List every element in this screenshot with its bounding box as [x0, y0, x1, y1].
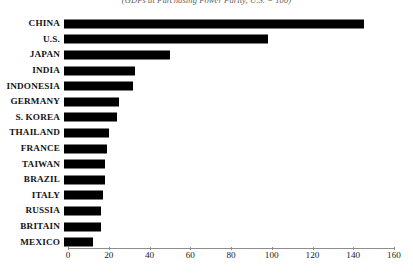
bar [64, 19, 364, 28]
bar-row: TAIWAN [0, 156, 413, 172]
bar-row: INDONESIA [0, 78, 413, 94]
bar-row: INDIA [0, 63, 413, 79]
x-tick-label: 140 [346, 250, 360, 260]
bar [64, 82, 133, 91]
category-label: JAPAN [0, 50, 64, 59]
bar-rows: CHINAU.S.JAPANINDIAINDONESIAGERMANYS. KO… [0, 16, 413, 250]
bar-track [64, 125, 413, 141]
bar-row: JAPAN [0, 47, 413, 63]
bar-track [64, 78, 413, 94]
bar-row: BRITAIN [0, 219, 413, 235]
x-tick-label: 160 [387, 250, 401, 260]
bar-row: ITALY [0, 188, 413, 204]
bar-track [64, 141, 413, 157]
x-tick-label: 80 [226, 250, 235, 260]
bar-track [64, 172, 413, 188]
category-label: TAIWAN [0, 160, 64, 169]
x-axis-ticks: 020406080100120140160 [0, 250, 413, 272]
category-label: S. KOREA [0, 113, 64, 122]
bar [64, 144, 107, 153]
bar [64, 206, 101, 215]
bar-row: GERMANY [0, 94, 413, 110]
category-label: ITALY [0, 191, 64, 200]
bar [64, 97, 119, 106]
bar [64, 128, 109, 137]
bar-row: RUSSIA [0, 203, 413, 219]
bar-track [64, 156, 413, 172]
category-label: FRANCE [0, 144, 64, 153]
category-label: INDIA [0, 66, 64, 75]
bar-track [64, 63, 413, 79]
bar [64, 160, 105, 169]
bar-row: U.S. [0, 32, 413, 48]
bar-track [64, 16, 413, 32]
x-tick-label: 100 [265, 250, 279, 260]
category-label: BRITAIN [0, 222, 64, 231]
chart-subtitle: (GDPs at Purchasing Power Parity, U.S. =… [0, 0, 413, 5]
bar-track [64, 110, 413, 126]
bar [64, 35, 268, 44]
x-tick-label: 60 [186, 250, 195, 260]
category-label: THAILAND [0, 128, 64, 137]
x-tick-label: 120 [306, 250, 320, 260]
category-label: GERMANY [0, 97, 64, 106]
bar-track [64, 94, 413, 110]
bar-row: FRANCE [0, 141, 413, 157]
bar-track [64, 203, 413, 219]
bar [64, 238, 93, 247]
x-tick-label: 40 [145, 250, 154, 260]
category-label: CHINA [0, 19, 64, 28]
plot-area: CHINAU.S.JAPANINDIAINDONESIAGERMANYS. KO… [0, 16, 413, 248]
bar [64, 113, 117, 122]
x-tick-label: 0 [66, 250, 71, 260]
bar-row: BRAZIL [0, 172, 413, 188]
bar-track [64, 219, 413, 235]
bar [64, 175, 105, 184]
bar-track [64, 188, 413, 204]
bar-row: THAILAND [0, 125, 413, 141]
bar-track [64, 32, 413, 48]
bar [64, 191, 103, 200]
bar [64, 66, 135, 75]
bar-track [64, 47, 413, 63]
bar [64, 222, 101, 231]
category-label: BRAZIL [0, 175, 64, 184]
category-label: RUSSIA [0, 206, 64, 215]
category-label: MEXICO [0, 238, 64, 247]
bar-row: CHINA [0, 16, 413, 32]
bar [64, 50, 170, 59]
gdp-bar-chart: (GDPs at Purchasing Power Parity, U.S. =… [0, 0, 413, 276]
category-label: INDONESIA [0, 82, 64, 91]
bar-row: S. KOREA [0, 110, 413, 126]
x-tick-label: 20 [104, 250, 113, 260]
category-label: U.S. [0, 35, 64, 44]
